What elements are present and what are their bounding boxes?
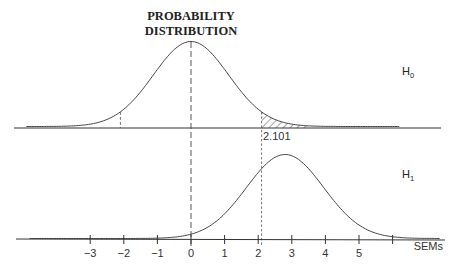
h0-panel: 2.101 H0 [14,42,441,143]
x-tick-label: 1 [222,247,228,259]
h1-label: H1 [402,168,414,183]
probability-distribution-chart: PROBABILITY DISTRIBUTION 2.101 H0 −3−2−1… [0,0,456,269]
chart-title-line2: DISTRIBUTION [145,24,237,38]
x-tick-label: 3 [289,247,295,259]
x-tick-label: 0 [188,247,194,259]
chart-title-line1: PROBABILITY [147,9,235,23]
h0-label: H0 [402,65,414,80]
x-tick-label: −2 [118,247,131,259]
x-axis-label: SEMs [414,240,444,252]
x-tick-label: 5 [356,247,362,259]
h1-curve [30,155,440,239]
x-tick-label: 2 [255,247,261,259]
x-tick-label: −1 [151,247,164,259]
h0-curve [26,42,399,127]
x-tick-label: 4 [322,247,328,259]
x-tick-label: −3 [84,247,97,259]
x-axis [16,239,445,240]
h1-panel: −3−2−1012345 SEMs H1 [16,155,445,260]
critical-value-label: 2.101 [263,130,291,142]
